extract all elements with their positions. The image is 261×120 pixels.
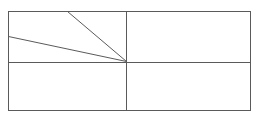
steep-diagonal: [68, 12, 127, 62]
line-diagram: [0, 0, 261, 120]
outer-rectangle: [9, 12, 251, 111]
shallow-diagonal: [9, 37, 127, 62]
diagram-canvas: [0, 0, 261, 120]
